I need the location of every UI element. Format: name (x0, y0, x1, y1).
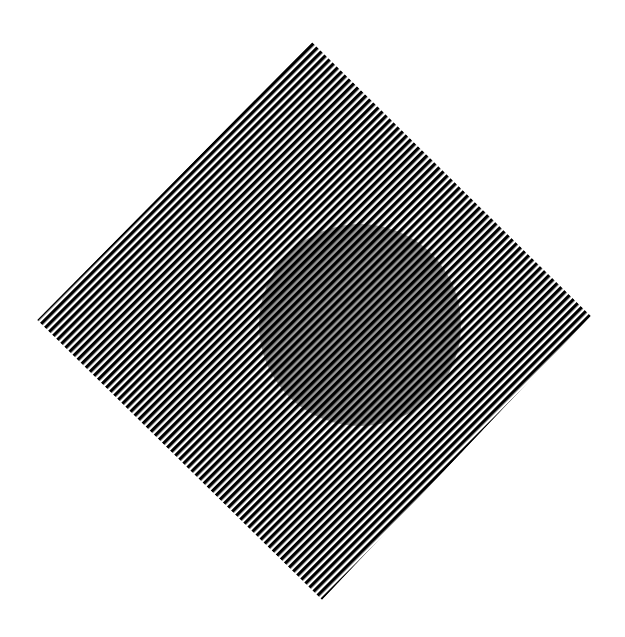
striped-diamond (37, 42, 591, 600)
diagonal-stripes (37, 42, 591, 600)
illusion-canvas (0, 0, 625, 637)
